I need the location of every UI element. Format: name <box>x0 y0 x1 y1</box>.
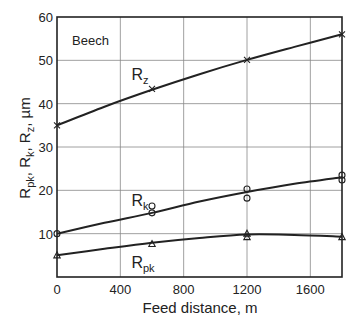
y-tick-label: 40 <box>39 97 53 112</box>
y-tick-label: 20 <box>39 183 53 198</box>
label-rk: Rk <box>131 192 149 212</box>
x-tick-label: 0 <box>53 282 60 297</box>
y-tick-label: 50 <box>39 53 53 68</box>
x-tick-label: 400 <box>109 282 131 297</box>
circle-marker <box>149 203 155 209</box>
x-tick-label: 1600 <box>296 282 325 297</box>
species-annotation: Beech <box>72 33 109 48</box>
label-rpk: Rpk <box>131 254 155 274</box>
x-tick-label: 1200 <box>233 282 262 297</box>
y-tick-label: 60 <box>39 10 53 25</box>
y-tick-label: 30 <box>39 140 53 155</box>
y-tick-label: 10 <box>39 227 53 242</box>
x-tick-label: 800 <box>173 282 195 297</box>
x-axis-ticks: 040080012001600 <box>53 282 324 297</box>
x-axis-label: Feed distance, m <box>142 299 257 316</box>
y-axis-label: Rpk, Rk, Rz, µm <box>16 97 36 198</box>
chart: 102030405060 040080012001600 RzRkRpk Bee… <box>0 0 357 327</box>
curve-rk <box>57 177 342 233</box>
curve-rpk <box>57 234 342 255</box>
series-curves <box>57 34 342 255</box>
y-axis-ticks: 102030405060 <box>39 10 53 242</box>
label-rz: Rz <box>131 66 148 86</box>
